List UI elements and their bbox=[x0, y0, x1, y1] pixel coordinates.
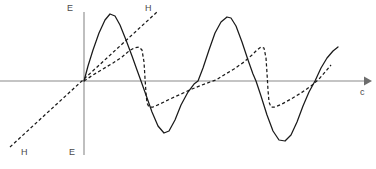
e-axis-top-label: E bbox=[67, 4, 73, 13]
h-axis-top-label: H bbox=[145, 4, 152, 13]
e-field-curve bbox=[84, 14, 338, 141]
c-axis-label: c bbox=[360, 88, 365, 97]
wave-plot-canvas bbox=[0, 0, 376, 169]
e-axis-bottom-label: E bbox=[69, 148, 75, 157]
h-axis-bottom-label: H bbox=[21, 148, 28, 157]
horizontal-axis-arrow-icon bbox=[364, 77, 372, 86]
em-wave-figure: E E H H c bbox=[0, 0, 376, 169]
